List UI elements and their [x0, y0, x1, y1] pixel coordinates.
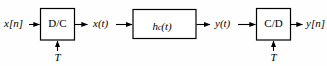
block-dc-label: D/C [48, 17, 66, 29]
clock-label-dc: T [54, 51, 61, 63]
block-cd-label: C/D [264, 17, 282, 29]
block-diagram: x[n] D/C T x(t) hc(t) y(t) C/D T [0, 0, 327, 66]
clock-label-cd: T [270, 51, 277, 63]
block-diagram-canvas: x[n] D/C T x(t) hc(t) y(t) C/D T [0, 0, 327, 66]
block-hc-label: hc(t) [153, 20, 173, 33]
signal-label-input: x[n] [3, 17, 23, 29]
signal-label-after-hc: y(t) [214, 17, 231, 30]
signal-label-output: y[n] [305, 17, 325, 29]
signal-label-after-dc: x(t) [92, 17, 109, 30]
block-hc-label-arg: (t) [161, 20, 172, 33]
